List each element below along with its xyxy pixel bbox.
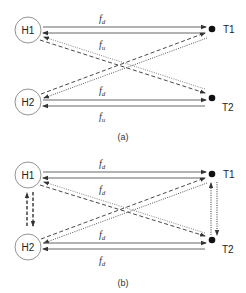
node-h2-label: H2 — [22, 97, 35, 108]
node-t2: T2 — [209, 95, 234, 113]
label-top-upper: fd — [99, 13, 106, 26]
caption-b: (b) — [118, 278, 129, 288]
node-t1: T1 — [209, 24, 235, 35]
label-bottom-upper: fd — [99, 85, 106, 98]
node-t2-label: T2 — [222, 102, 234, 113]
label-bottom-lower: fu — [99, 111, 106, 124]
node-t1-label: T1 — [223, 169, 235, 180]
arrow-t2-to-h1-dotted — [44, 182, 205, 233]
arrow-t1-to-h2-dotted — [44, 38, 207, 98]
node-h2: H2 — [15, 234, 41, 260]
node-h1: H1 — [15, 17, 41, 43]
node-h2-label: H2 — [22, 242, 35, 253]
t1-dot — [209, 171, 216, 178]
node-t2-label: T2 — [222, 244, 234, 255]
arrow-h2-to-t1-dashed — [41, 178, 205, 239]
arrow-t1-to-h2-dotted — [44, 183, 207, 243]
caption-a: (a) — [118, 132, 129, 142]
diagram-a: H1 H2 T1 T2 fd fu fd fu (a) — [15, 13, 235, 142]
node-h1-label: H1 — [22, 25, 35, 36]
diagram-b: H1 H2 T1 T2 fd fd fd fd — [15, 158, 235, 288]
node-h1-label: H1 — [22, 170, 35, 181]
arrow-h2-to-t1-dashed — [41, 33, 205, 94]
label-top-upper: fd — [99, 158, 106, 171]
t2-dot — [209, 95, 216, 102]
interference-diagram: H1 H2 T1 T2 fd fu fd fu (a) — [0, 0, 246, 293]
node-h2: H2 — [15, 89, 41, 115]
t2-dot — [209, 237, 216, 244]
label-top-lower: fu — [99, 39, 106, 52]
label-top-lower: fd — [99, 184, 106, 197]
arrow-t2-to-h1-dotted — [44, 37, 205, 89]
label-bottom-upper: fd — [99, 229, 106, 242]
node-t1: T1 — [209, 169, 235, 180]
t1-dot — [209, 26, 216, 33]
label-bottom-lower: fd — [99, 255, 106, 268]
node-t2: T2 — [209, 237, 234, 255]
node-t1-label: T1 — [223, 24, 235, 35]
node-h1: H1 — [15, 162, 41, 188]
